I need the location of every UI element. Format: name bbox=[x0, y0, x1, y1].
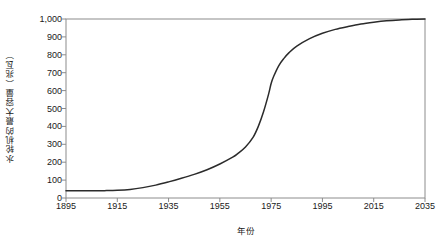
plot-area bbox=[0, 0, 442, 246]
chart-container: 水轮机的最大容量（兆瓦） 010020030040050060070080090… bbox=[0, 0, 442, 246]
x-axis-title: 年份 bbox=[66, 224, 426, 236]
plot-border bbox=[66, 19, 425, 198]
series-line-capacity bbox=[66, 19, 425, 191]
axis-tick-marks bbox=[62, 19, 425, 202]
plot-frame bbox=[66, 19, 425, 198]
